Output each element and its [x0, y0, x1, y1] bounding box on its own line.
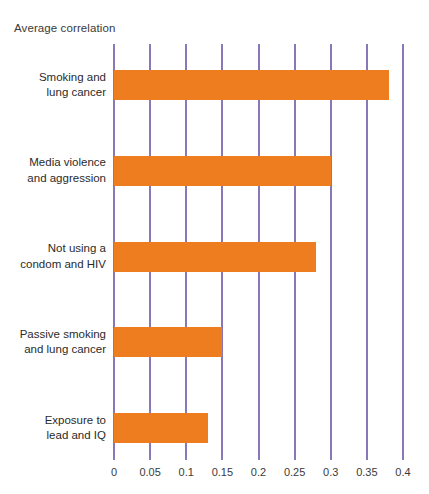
category-label-line: Exposure to [0, 413, 106, 429]
gridline-0.4 [402, 44, 404, 460]
bar-row [114, 413, 208, 443]
category-label: Media violenceand aggression [0, 155, 106, 186]
bar-row [114, 70, 389, 100]
gridline-0.3 [330, 44, 332, 460]
plot-area [114, 44, 403, 460]
bar [114, 242, 316, 272]
x-tick-label: 0 [111, 466, 117, 478]
bar-row [114, 327, 222, 357]
x-tick-label: 0.2 [251, 466, 266, 478]
x-tick-label: 0.05 [139, 466, 160, 478]
x-tick-label: 0.35 [356, 466, 377, 478]
category-label-line: lung cancer [0, 85, 106, 101]
bar [114, 156, 331, 186]
category-label-line: condom and HIV [0, 257, 106, 273]
x-tick-label: 0.3 [323, 466, 338, 478]
x-tick-label: 0.1 [179, 466, 194, 478]
category-label: Not using acondom and HIV [0, 241, 106, 272]
category-label: Passive smokingand lung cancer [0, 327, 106, 358]
category-label-line: Media violence [0, 155, 106, 171]
x-tick-label: 0.25 [284, 466, 305, 478]
bar-row [114, 242, 316, 272]
category-label-line: and aggression [0, 171, 106, 187]
bar-row [114, 156, 331, 186]
chart-container: Average correlation Smoking andlung canc… [0, 0, 429, 494]
bar [114, 70, 389, 100]
x-tick-label: 0.4 [395, 466, 410, 478]
category-label-line: Smoking and [0, 70, 106, 86]
axis-title: Average correlation [14, 22, 115, 34]
category-label-line: lead and IQ [0, 428, 106, 444]
x-tick-label: 0.15 [212, 466, 233, 478]
bar [114, 327, 222, 357]
category-label: Smoking andlung cancer [0, 70, 106, 101]
category-label-line: and lung cancer [0, 342, 106, 358]
category-label-line: Passive smoking [0, 327, 106, 343]
category-label: Exposure tolead and IQ [0, 413, 106, 444]
gridline-0.35 [366, 44, 368, 460]
category-label-line: Not using a [0, 241, 106, 257]
bar [114, 413, 208, 443]
